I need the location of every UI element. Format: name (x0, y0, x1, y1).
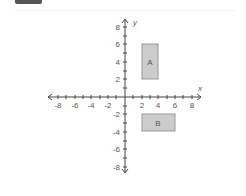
y-axis: 8 6 4 2 -2 -4 -6 -8 y (113, 18, 138, 173)
x-tick-label: -8 (54, 101, 62, 110)
y-tick-label: -8 (113, 163, 121, 172)
rectangle-b-label: B (155, 119, 160, 128)
rectangle-b: B (142, 114, 175, 131)
y-tick-label: 6 (116, 40, 121, 49)
y-tick-label: 4 (116, 58, 121, 67)
y-tick-label: -4 (113, 128, 121, 137)
x-tick-label: 4 (156, 101, 161, 110)
y-tick-label: 2 (116, 75, 121, 84)
rectangle-a: A (142, 44, 158, 79)
x-tick-label: 8 (190, 101, 195, 110)
x-tick-label: -4 (87, 101, 95, 110)
y-tick-label: 8 (116, 23, 121, 32)
x-tick-label: 6 (173, 101, 178, 110)
x-tick-label: 2 (140, 101, 145, 110)
y-axis-label: y (132, 18, 138, 27)
y-tick-label: -6 (113, 145, 121, 154)
x-axis-label: x (197, 84, 203, 93)
coordinate-plane: -8 -6 -4 -2 2 4 6 8 x 8 6 4 2 -2 -4 -6 -… (0, 0, 246, 196)
x-tick-label: -6 (71, 101, 79, 110)
y-tick-label: -2 (113, 110, 121, 119)
x-tick-label: -2 (104, 101, 112, 110)
rectangle-a-label: A (147, 58, 153, 67)
